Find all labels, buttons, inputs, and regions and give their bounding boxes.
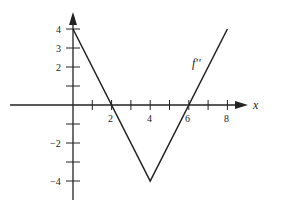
curve-label: f'': [192, 56, 201, 70]
x-axis-arrow-icon: [235, 101, 248, 109]
x-axis-label: x: [252, 98, 259, 112]
y-axis-arrow-icon: [69, 12, 77, 25]
f-double-prime-graph: 2 4 6 8 4 3 2 −2 −4 f'' x: [0, 0, 293, 211]
y-tick-label-2: 2: [56, 62, 61, 73]
x-tick-label-4: 4: [147, 113, 152, 124]
y-tick-label-3: 3: [56, 43, 61, 54]
x-tick-label-6: 6: [185, 113, 190, 124]
chart-canvas: 2 4 6 8 4 3 2 −2 −4 f'' x: [0, 0, 293, 211]
y-tick-label-neg2: −2: [50, 138, 61, 149]
y-tick-label-neg4: −4: [50, 176, 61, 187]
x-tick-label-2: 2: [108, 113, 113, 124]
x-tick-label-8: 8: [224, 113, 229, 124]
y-tick-label-4: 4: [56, 24, 61, 35]
